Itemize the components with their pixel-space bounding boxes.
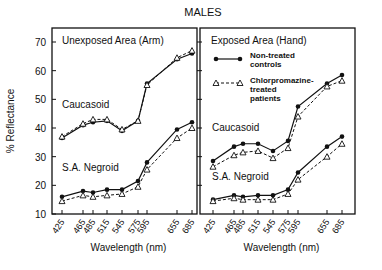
filled-circle-marker-icon [232,144,237,149]
figure-title: MALES [184,6,221,18]
filled-circle-marker-icon [340,134,345,139]
filled-circle-marker-icon [214,57,219,62]
open-triangle-marker-icon [80,192,86,198]
x-tick-label: 595 [286,217,303,235]
group-label-negroid: S.A. Negroid [212,171,269,182]
x-tick-label: 425 [50,217,67,235]
open-triangle-marker-icon [339,78,345,84]
filled-circle-marker-icon [340,73,345,78]
series-line [62,122,192,197]
x-tick-label: 685 [330,217,347,235]
legend-label-controls-line1: Non-treated [250,51,295,60]
x-tick-label: 655 [165,217,182,235]
x-axis-label: Wavelength (nm) [91,242,167,253]
legend-label-controls-line2: controls [250,60,282,69]
series-lines [210,73,345,204]
series-lines [59,48,195,204]
filled-circle-marker-icon [271,149,276,154]
filled-circle-marker-icon [241,141,246,146]
legend-label-treated-line1: Chlorpromazine- [250,76,314,85]
open-triangle-marker-icon [174,55,180,61]
legend-label-treated-line2: treated [250,85,277,94]
open-triangle-marker-icon [270,197,276,203]
panel-title: Exposed Area (Hand) [211,35,307,46]
reflectance-figure: MALES % Reflectance 10203040506070 Unexp… [0,0,382,270]
panel-frame [52,28,197,214]
open-triangle-marker-icon [270,155,276,161]
open-triangle-marker-icon [135,184,141,190]
filled-circle-marker-icon [296,104,301,109]
panel-exposed-hand: Exposed Area (Hand) Caucasoid S.A. Negro… [200,28,355,253]
panel-title: Unexposed Area (Arm) [62,35,164,46]
x-tick-label: 545 [261,217,278,235]
group-label-caucasoid: Caucasoid [212,122,259,133]
filled-circle-marker-icon [105,187,110,192]
filled-circle-marker-icon [296,170,301,175]
open-triangle-marker-icon [104,192,110,198]
y-tick-label: 10 [35,209,47,220]
open-triangle-marker-icon [189,48,195,54]
x-axis-label: Wavelength (nm) [244,242,320,253]
filled-circle-marker-icon [190,120,195,125]
open-triangle-marker-icon [90,194,96,200]
x-tick-label: 685 [180,217,197,235]
group-label-caucasoid: Caucasoid [62,99,109,110]
open-triangle-marker-icon [285,191,291,197]
open-triangle-marker-icon [285,145,291,151]
x-tick-label: 515 [95,217,112,235]
filled-circle-marker-icon [211,159,216,164]
filled-circle-marker-icon [286,139,291,144]
open-triangle-marker-icon [119,191,125,197]
y-tick-label: 50 [35,94,47,105]
panel-unexposed-arm: Unexposed Area (Arm) Caucasoid S.A. Negr… [50,28,197,253]
filled-circle-marker-icon [238,57,243,62]
x-tick-label: 545 [110,217,127,235]
filled-circle-marker-icon [325,144,330,149]
y-tick-label: 40 [35,123,47,134]
open-triangle-marker-icon [189,125,195,131]
filled-circle-marker-icon [256,141,261,146]
y-tick-label: 30 [35,152,47,163]
x-tick-label: 515 [246,217,263,235]
x-tick-label: 485 [81,217,98,235]
open-triangle-marker-icon [210,164,216,170]
y-tick-label: 20 [35,180,47,191]
x-tick-label: 425 [201,217,218,235]
legend-label-treated-line3: patients [250,94,281,103]
open-triangle-marker-icon [324,154,330,160]
filled-circle-marker-icon [145,160,150,165]
open-triangle-marker-icon [174,135,180,141]
open-triangle-marker-icon [80,121,86,127]
group-label-negroid: S.A. Negroid [62,162,119,173]
filled-circle-marker-icon [175,127,180,132]
open-triangle-marker-icon [339,141,345,147]
y-tick-label: 60 [35,66,47,77]
legend: Non-treated controls Chlorpromazine- tre… [213,51,314,103]
x-tick-label: 655 [315,217,332,235]
y-axis-label: % Reflectance [5,88,16,153]
y-tick-label: 70 [35,37,47,48]
